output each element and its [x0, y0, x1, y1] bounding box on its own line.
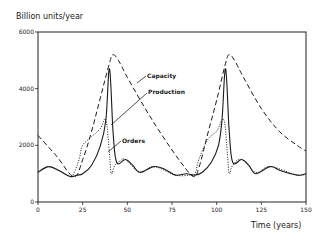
x-tick-label: 150 [300, 206, 312, 213]
x-tick-label: 125 [256, 206, 268, 213]
production-line [38, 69, 306, 177]
x-axis-ticks: 0255075100125150 [36, 202, 312, 213]
capacity-label: Capacity [147, 72, 176, 80]
annotations: Capacity Production Orders [108, 72, 185, 152]
chart: Billion units/year 0200040006000 0255075… [0, 0, 326, 242]
x-tick-label: 25 [79, 206, 87, 213]
y-tick-label: 2000 [19, 141, 34, 148]
x-tick-label: 100 [211, 206, 223, 213]
orders-label: Orders [122, 137, 145, 144]
production-label: Production [148, 88, 185, 95]
production-leader-line [111, 93, 147, 125]
x-axis-label: Time (years) [250, 221, 301, 230]
x-tick-label: 50 [124, 206, 132, 213]
plot-frame [38, 32, 306, 202]
y-tick-label: 6000 [19, 28, 34, 35]
y-tick-label: 4000 [19, 85, 34, 92]
y-axis-ticks: 0200040006000 [19, 28, 38, 205]
capacity-leader-line [137, 76, 146, 83]
x-tick-label: 0 [36, 206, 40, 213]
y-tick-label: 0 [30, 198, 34, 205]
x-tick-label: 75 [168, 206, 176, 213]
y-axis-label: Billion units/year [16, 12, 84, 21]
